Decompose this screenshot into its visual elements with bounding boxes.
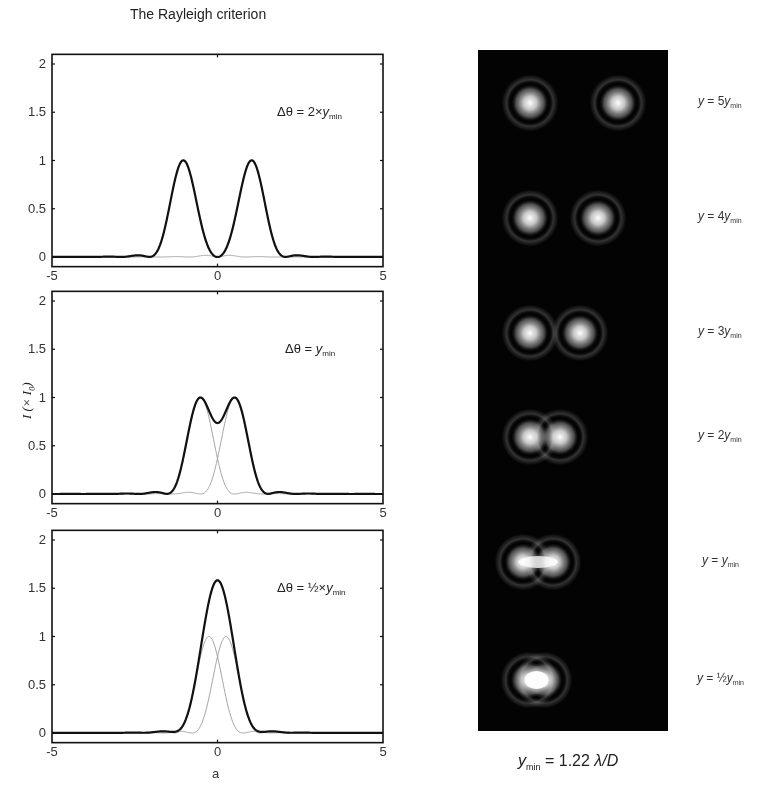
airy-disk-image bbox=[478, 50, 668, 731]
y-tick-label: 1 bbox=[10, 629, 46, 644]
separation-label: y = ymin bbox=[702, 553, 739, 568]
x-tick-label: 5 bbox=[368, 744, 398, 759]
left-airy-component-curve bbox=[52, 637, 383, 733]
airy-disk-pair bbox=[494, 533, 582, 591]
separation-annotation: Δθ = ½×ymin bbox=[277, 580, 346, 597]
x-axis-label: a bbox=[212, 766, 219, 781]
y-tick-label: 0 bbox=[10, 725, 46, 740]
airy-disk-image-panel bbox=[478, 50, 668, 731]
separation-label: y = 3ymin bbox=[698, 324, 742, 339]
separation-label: y = 2ymin bbox=[698, 428, 742, 443]
y-tick-label: 0.5 bbox=[10, 677, 46, 692]
airy-disk-pair bbox=[501, 189, 627, 247]
plot-frame bbox=[52, 530, 383, 742]
airy-disk-pair bbox=[501, 74, 647, 132]
separation-label: y = 5ymin bbox=[698, 94, 742, 109]
airy-disk-pair bbox=[501, 304, 609, 362]
airy-disk-pair bbox=[500, 651, 573, 709]
right-airy-component-curve bbox=[52, 637, 383, 733]
x-tick-label: 0 bbox=[203, 744, 233, 759]
y-axis-label: I (× I0) bbox=[19, 371, 37, 431]
y-tick-label: 1.5 bbox=[10, 580, 46, 595]
separation-label: y = 4ymin bbox=[698, 209, 742, 224]
separation-label: y = ½ymin bbox=[697, 671, 744, 686]
airy-disk-pair bbox=[501, 408, 589, 466]
y-tick-label: 2 bbox=[10, 532, 46, 547]
ymin-formula-caption: ymin = 1.22 λ/D bbox=[518, 752, 618, 772]
x-tick-label: -5 bbox=[37, 744, 67, 759]
